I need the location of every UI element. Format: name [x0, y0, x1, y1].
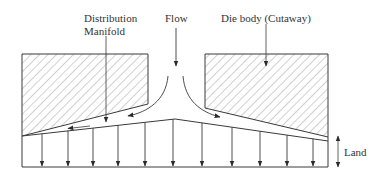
right-die-body: [205, 54, 328, 137]
land-label: Land: [344, 146, 367, 159]
distribution-label: Distribution: [84, 12, 137, 25]
die-body-label: Die body (Cutaway): [221, 12, 311, 25]
outlet-flow-arrows: [42, 119, 313, 166]
die-cross-section-diagram: [0, 0, 382, 179]
manifold-label: Manifold: [84, 25, 125, 38]
flow-label: Flow: [165, 12, 188, 25]
